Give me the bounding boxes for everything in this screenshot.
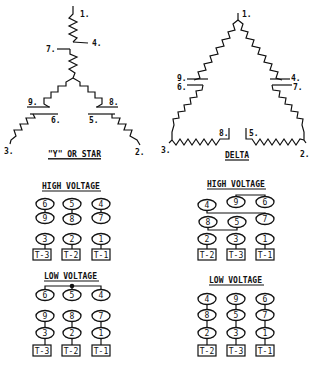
lead-label-6: 6. bbox=[177, 83, 187, 92]
terminal-lead: 3 bbox=[43, 235, 48, 244]
lead-label-9: 9. bbox=[28, 98, 38, 107]
terminal-lead: 7 bbox=[99, 312, 104, 321]
terminal-box: T-1 bbox=[94, 251, 109, 260]
terminal-lead: 2 bbox=[205, 329, 210, 338]
lead-label-7: 7. bbox=[46, 45, 56, 54]
coil-1-4 bbox=[238, 20, 282, 80]
terminal-lead: 2 bbox=[205, 235, 210, 244]
terminal-box: T-1 bbox=[94, 347, 109, 356]
terminal-lead: 6 bbox=[263, 295, 268, 304]
terminal-box: T-2 bbox=[64, 347, 79, 356]
terminal-lead: 2 bbox=[70, 235, 75, 244]
lead-label-2: 2. bbox=[135, 148, 145, 157]
terminal-lead: 9 bbox=[234, 295, 239, 304]
terminal-box: T-1 bbox=[258, 347, 273, 356]
coil-7-2 bbox=[272, 85, 306, 143]
terminal-box: T-2 bbox=[200, 347, 215, 356]
terminal-lead: 8 bbox=[70, 215, 75, 224]
terminal-lead: 5 bbox=[234, 311, 239, 320]
terminal-box: T-3 bbox=[229, 251, 244, 260]
coil-1-9 bbox=[194, 20, 238, 80]
coil-center-9 bbox=[44, 78, 73, 107]
lead-label-4: 4. bbox=[291, 74, 301, 83]
terminal-lead: 6 bbox=[43, 291, 48, 300]
terminal-lead: 5 bbox=[70, 200, 75, 209]
wye-low-voltage-connection: LOW VOLTAGE 6 5 4 9 8 7 3 2 1 T-3 T-2 T-… bbox=[33, 272, 110, 356]
terminal-lead: 6 bbox=[263, 198, 268, 207]
terminal-lead: 2 bbox=[70, 329, 75, 338]
terminal-lead: 4 bbox=[205, 201, 210, 210]
terminal-box: T-3 bbox=[229, 347, 244, 356]
coil-7-center bbox=[69, 49, 77, 78]
terminal-lead: 8 bbox=[205, 311, 210, 320]
terminal-lead: 9 bbox=[43, 312, 48, 321]
terminal-box: T-3 bbox=[35, 347, 50, 356]
lead-label-7: 7. bbox=[293, 83, 303, 92]
lead-label-6: 6. bbox=[51, 116, 61, 125]
motor-wiring-diagram: 1. 4. 7. 9. 6. 8. 5. 3. 2. "Y" OR STAR 1… bbox=[0, 0, 317, 365]
terminal-lead: 1 bbox=[99, 329, 104, 338]
terminal-lead: 4 bbox=[99, 200, 104, 209]
lead-label-4: 4. bbox=[92, 39, 102, 48]
terminal-box: T-3 bbox=[35, 251, 50, 260]
terminal-lead: 8 bbox=[206, 218, 211, 227]
terminal-lead: 4 bbox=[99, 291, 104, 300]
lead-label-3: 3. bbox=[4, 147, 14, 156]
terminal-box: T-2 bbox=[64, 251, 79, 260]
delta-diagram: 1. 9. 6. 4. 7. 8. 5. 3. 2. DELTA bbox=[161, 10, 310, 160]
terminal-box: T-2 bbox=[200, 251, 215, 260]
terminal-lead: 3 bbox=[43, 329, 48, 338]
wye-low-title: LOW VOLTAGE bbox=[44, 272, 97, 281]
terminal-lead: 7 bbox=[263, 311, 268, 320]
coil-5-2 bbox=[112, 114, 140, 145]
lead-label-8: 8. bbox=[219, 129, 229, 138]
wye-high-title: HIGH VOLTAGE bbox=[42, 182, 100, 191]
terminal-lead: 7 bbox=[263, 215, 268, 224]
coil-center-8 bbox=[73, 78, 102, 107]
terminal-lead: 5 bbox=[70, 291, 75, 300]
wye-diagram: 1. 4. 7. 9. 6. 8. 5. 3. 2. "Y" OR STAR bbox=[4, 6, 145, 159]
terminal-lead: 1 bbox=[263, 329, 268, 338]
wye-high-voltage-connection: HIGH VOLTAGE 6 5 4 9 8 7 3 2 1 T-3 T-2 T… bbox=[33, 182, 110, 260]
delta-low-voltage-connection: LOW VOLTAGE 4 9 6 8 5 7 2 3 1 T-2 T-3 T-… bbox=[198, 276, 274, 356]
lead-label-5: 5. bbox=[89, 116, 99, 125]
terminal-lead: 6 bbox=[43, 200, 48, 209]
terminal-lead: 9 bbox=[43, 214, 48, 223]
lead-label-1: 1. bbox=[242, 10, 252, 19]
terminal-lead: 5 bbox=[235, 218, 240, 227]
terminal-lead: 8 bbox=[70, 312, 75, 321]
lead-label-1: 1. bbox=[80, 10, 90, 19]
terminal-lead: 1 bbox=[263, 235, 268, 244]
terminal-lead: 3 bbox=[234, 329, 239, 338]
lead-label-2: 2. bbox=[300, 150, 310, 159]
lead-label-9: 9. bbox=[177, 74, 187, 83]
wye-title: "Y" OR STAR bbox=[48, 150, 101, 159]
terminal-box: T-1 bbox=[258, 251, 273, 260]
lead-label-8: 8. bbox=[109, 98, 119, 107]
terminal-lead: 4 bbox=[205, 295, 210, 304]
terminal-lead: 3 bbox=[234, 235, 239, 244]
terminal-lead: 9 bbox=[234, 198, 239, 207]
delta-low-title: LOW VOLTAGE bbox=[209, 276, 262, 285]
lead-label-3: 3. bbox=[161, 146, 171, 155]
coil-6-3 bbox=[10, 114, 35, 144]
lead-label-5: 5. bbox=[249, 129, 259, 138]
delta-high-voltage-connection: HIGH VOLTAGE 4 9 6 8 5 7 2 3 1 T-2 T-3 T… bbox=[198, 180, 274, 260]
delta-high-title: HIGH VOLTAGE bbox=[207, 180, 265, 189]
terminal-lead: 7 bbox=[99, 214, 104, 223]
coil-1-4 bbox=[69, 6, 77, 42]
coil-6-3 bbox=[169, 85, 203, 143]
terminal-lead: 1 bbox=[99, 235, 104, 244]
delta-title: DELTA bbox=[225, 151, 249, 160]
